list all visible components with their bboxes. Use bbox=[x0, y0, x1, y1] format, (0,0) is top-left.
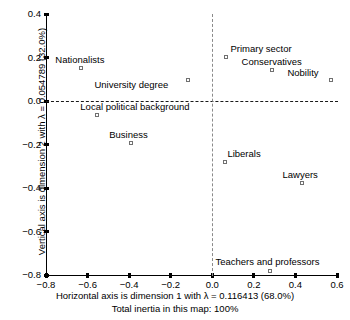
y-tick-label: 0.4 bbox=[28, 9, 41, 19]
y-tick-mark bbox=[44, 143, 49, 146]
x-tick-label: −0.2 bbox=[161, 280, 180, 290]
data-point-label: Business bbox=[109, 130, 148, 140]
data-point-label: University degree bbox=[94, 80, 168, 90]
x-tick-label: 0.6 bbox=[330, 280, 343, 290]
data-point-label: Conservatives bbox=[242, 57, 302, 67]
y-tick-mark bbox=[44, 13, 49, 16]
x-tick-label: −0.4 bbox=[120, 280, 139, 290]
data-point-label: Local political background bbox=[80, 102, 189, 112]
data-point-marker[interactable] bbox=[95, 113, 99, 117]
data-point-marker[interactable] bbox=[300, 181, 304, 185]
x-tick-mark bbox=[252, 273, 255, 278]
y-tick-label: 0.2 bbox=[28, 53, 41, 63]
correspondence-analysis-scatter-plot: Vertical axis is dimension 2 with λ = 0.… bbox=[0, 0, 350, 320]
plot-area: 0.40.20.0−0.2−0.4−0.6−0.8 −0.8−0.6−0.4−0… bbox=[46, 14, 337, 275]
x-tick-label: 0.4 bbox=[289, 280, 302, 290]
data-point-marker[interactable] bbox=[223, 160, 227, 164]
x-tick-mark bbox=[128, 273, 131, 278]
x-tick-mark bbox=[169, 273, 172, 278]
data-point-label: Nationalists bbox=[55, 55, 104, 65]
data-point-marker[interactable] bbox=[129, 141, 133, 145]
y-tick-mark bbox=[44, 56, 49, 59]
vertical-reference-line bbox=[212, 14, 213, 276]
x-tick-mark bbox=[294, 273, 297, 278]
x-tick-label: 0.0 bbox=[206, 280, 219, 290]
data-point-label: Liberals bbox=[227, 149, 260, 159]
total-inertia-note: Total inertia in this map: 100% bbox=[0, 303, 350, 314]
data-point-label: Nobility bbox=[287, 68, 318, 78]
y-tick-label: −0.4 bbox=[22, 183, 41, 193]
data-point-label: Primary sector bbox=[230, 44, 291, 54]
data-point-marker[interactable] bbox=[186, 78, 190, 82]
y-tick-label: −0.6 bbox=[22, 227, 41, 237]
data-point-marker[interactable] bbox=[224, 55, 228, 59]
x-tick-label: −0.8 bbox=[37, 280, 56, 290]
data-point-marker[interactable] bbox=[270, 68, 274, 72]
x-tick-mark bbox=[86, 273, 89, 278]
x-tick-mark bbox=[336, 273, 339, 278]
data-point-marker[interactable] bbox=[79, 66, 83, 70]
x-tick-label: 0.2 bbox=[247, 280, 260, 290]
x-tick-mark bbox=[45, 273, 48, 278]
y-tick-label: −0.2 bbox=[22, 140, 41, 150]
y-tick-mark bbox=[44, 187, 49, 190]
x-axis-title: Horizontal axis is dimension 1 with λ = … bbox=[0, 290, 350, 301]
y-tick-mark bbox=[44, 230, 49, 233]
data-point-label: Teachers and professors bbox=[215, 257, 319, 267]
y-tick-label: 0.0 bbox=[28, 96, 41, 106]
data-point-label: Lawyers bbox=[282, 170, 317, 180]
x-tick-label: −0.6 bbox=[78, 280, 97, 290]
data-point-marker[interactable] bbox=[329, 78, 333, 82]
data-point-marker[interactable] bbox=[268, 269, 272, 273]
